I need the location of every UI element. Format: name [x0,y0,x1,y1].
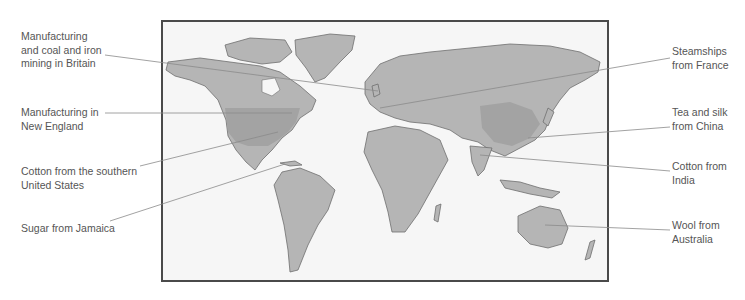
label-australia: Wool from Australia [672,219,720,246]
label-southern-us: Cotton from the southern United States [21,165,137,192]
united-states [225,108,300,146]
leader-china [528,127,670,138]
australia [518,206,568,248]
madagascar [434,204,441,222]
map-overlay [0,0,745,300]
greenland [295,34,355,82]
indonesia [500,180,560,198]
caribbean [280,161,302,166]
label-india: Cotton from India [672,160,727,187]
label-china: Tea and silk from China [672,106,727,133]
label-new-england: Manufacturing in New England [21,106,99,133]
label-jamaica: Sugar from Jamaica [21,222,115,236]
south-america [274,168,335,272]
new-zealand [585,240,595,260]
leader-india [480,155,670,171]
arctic-islands [225,38,292,64]
label-britain: Manufacturing and coal and iron mining i… [21,30,102,71]
india [470,146,492,176]
label-france: Steamships from France [672,45,729,72]
